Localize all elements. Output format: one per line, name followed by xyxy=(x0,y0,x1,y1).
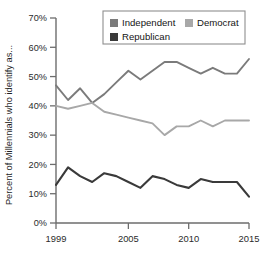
y-axis-ticks: 0%10%20%30%40%50%60%70% xyxy=(29,13,56,228)
series-line-republican xyxy=(56,167,249,196)
legend-swatch-republican xyxy=(110,33,118,41)
series-lines xyxy=(56,59,249,197)
legend-swatch-independent xyxy=(110,19,118,27)
y-axis-title: Percent of Millennials who identify as..… xyxy=(4,45,14,205)
legend-label-independent: Independent xyxy=(122,17,176,28)
chart-legend: IndependentDemocratRepublican xyxy=(103,11,245,44)
series-line-democrat xyxy=(56,103,249,135)
y-tick-label: 50% xyxy=(29,72,47,82)
legend-swatch-democrat xyxy=(185,19,193,27)
legend-label-democrat: Democrat xyxy=(197,17,239,28)
y-tick-label: 10% xyxy=(29,189,47,199)
x-tick-label: 2010 xyxy=(178,233,199,244)
y-tick-label: 60% xyxy=(29,43,47,53)
line-chart: Percent of Millennials who identify as..… xyxy=(0,0,264,256)
y-axis-title-text: Percent of Millennials who identify as..… xyxy=(4,45,14,205)
x-tick-label: 2005 xyxy=(118,233,139,244)
x-axis-ticks: 1999200520102015 xyxy=(46,223,260,244)
y-tick-label: 70% xyxy=(29,13,47,23)
y-tick-label: 30% xyxy=(29,130,47,140)
y-tick-label: 20% xyxy=(29,160,47,170)
x-tick-label: 1999 xyxy=(46,233,67,244)
series-line-independent xyxy=(56,59,249,103)
y-tick-label: 0% xyxy=(34,218,47,228)
x-tick-label: 2015 xyxy=(239,233,260,244)
chart-container: Percent of Millennials who identify as..… xyxy=(0,0,264,256)
legend-label-republican: Republican xyxy=(122,31,170,42)
y-tick-label: 40% xyxy=(29,101,47,111)
